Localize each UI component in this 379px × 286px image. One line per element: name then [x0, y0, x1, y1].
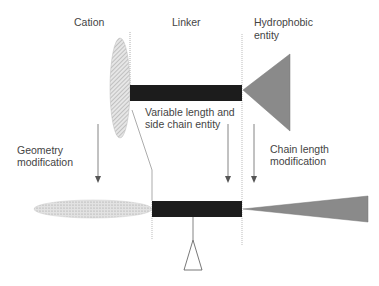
linker-label: Linker [172, 16, 201, 28]
cation-label: Cation [74, 16, 105, 28]
linker-bar-original [130, 85, 242, 101]
arrow-geometry [95, 124, 101, 183]
variable-length-label-line1: Variable length and [145, 106, 235, 118]
arrow-variable-length [225, 124, 231, 183]
geometry-modification-label-line1: Geometry [17, 144, 64, 156]
arrow-chain-length [251, 124, 257, 183]
geometry-modification-label-line2: modification [17, 156, 73, 168]
chain-length-modification-label-line2: modification [270, 155, 326, 167]
diagram-canvas: Cation Linker Hydrophobic entity Variabl… [0, 0, 379, 286]
linker-bar-modified [152, 201, 242, 217]
variable-length-label-line2: side chain entity [145, 118, 221, 130]
hydrophobic-label-line2: entity [254, 29, 280, 41]
hydrophobic-label-line1: Hydrophobic [254, 16, 313, 28]
cation-ellipse-modified [34, 200, 152, 218]
hydrophobic-triangle-original [243, 54, 290, 131]
side-chain-triangle [184, 240, 202, 270]
hydrophobic-triangle-modified [243, 196, 368, 222]
cation-ellipse-original [110, 38, 130, 138]
chain-length-modification-label-line1: Chain length [270, 143, 329, 155]
